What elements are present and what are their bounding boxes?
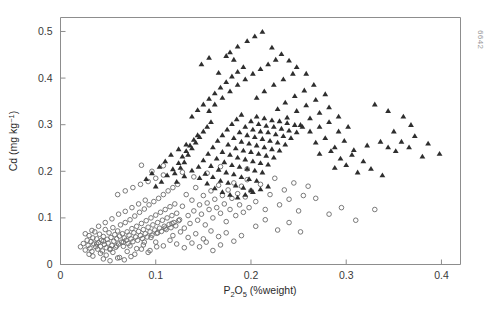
x-tick-label: 0.3	[339, 269, 354, 281]
x-tick-label: 0.2	[244, 269, 259, 281]
figure-corner-id: 6642	[476, 30, 485, 50]
x-tick-label: 0.1	[148, 269, 163, 281]
y-tick-label: 0.1	[38, 211, 53, 223]
y-tick-label: 0	[47, 258, 53, 270]
y-tick-label: 0.4	[38, 72, 53, 84]
y-tick-label: 0.3	[38, 118, 53, 130]
chart-canvas: 00.10.20.30.4 00.10.20.30.40.5 P2O5 (%we…	[0, 0, 490, 311]
y-tick-label: 0.5	[38, 25, 53, 37]
x-tick-label: 0	[58, 269, 64, 281]
scatter-plot-figure: 00.10.20.30.4 00.10.20.30.40.5 P2O5 (%we…	[0, 0, 490, 311]
y-tick-label: 0.2	[38, 165, 53, 177]
x-tick-label: 0.4	[434, 269, 449, 281]
